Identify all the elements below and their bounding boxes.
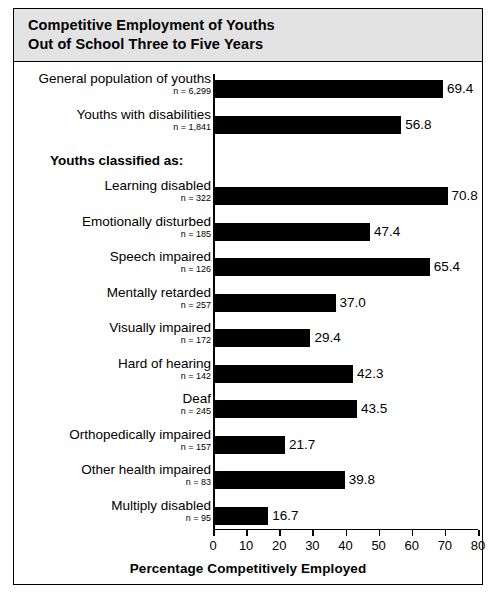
category-name: Multiply disabled bbox=[111, 498, 211, 513]
category-name: Emotionally disturbed bbox=[82, 214, 211, 229]
bar-value-label: 70.8 bbox=[452, 188, 478, 204]
bar-row: Other health impairedn = 8339.8 bbox=[14, 471, 482, 489]
x-axis-tick bbox=[312, 530, 314, 536]
chart-title-line-1: Competitive Employment of Youths bbox=[28, 16, 482, 35]
category-sample-size: n = 6,299 bbox=[38, 86, 211, 97]
bar-row-label: Speech impairedn = 126 bbox=[110, 249, 211, 275]
x-axis-tick-label: 50 bbox=[364, 538, 394, 553]
x-axis-tick bbox=[213, 530, 215, 536]
bar-row: Youths with disabilitiesn = 1,84156.8 bbox=[14, 116, 482, 134]
bar bbox=[213, 329, 310, 347]
category-sample-size: n = 157 bbox=[69, 442, 211, 453]
bar-row: General population of youthsn = 6,29969.… bbox=[14, 80, 482, 98]
bar-row: Visually impairedn = 17229.4 bbox=[14, 329, 482, 347]
bar-row-label: Learning disabledn = 322 bbox=[104, 178, 211, 204]
x-axis-tick bbox=[445, 530, 447, 536]
bar-value-label: 43.5 bbox=[361, 401, 387, 417]
x-axis-tick-label: 0 bbox=[198, 538, 228, 553]
bar bbox=[213, 400, 357, 418]
y-axis-line bbox=[213, 74, 215, 529]
bar-value-label: 29.4 bbox=[314, 330, 340, 346]
category-sample-size: n = 1,841 bbox=[76, 122, 211, 133]
bar-row-label: General population of youthsn = 6,299 bbox=[38, 71, 211, 97]
bar-row-label: Orthopedically impairedn = 157 bbox=[69, 427, 211, 453]
category-name: Speech impaired bbox=[110, 249, 211, 264]
bar-value-label: 37.0 bbox=[340, 295, 366, 311]
bar-value-label: 21.7 bbox=[289, 437, 315, 453]
bar-row-label: Youths with disabilitiesn = 1,841 bbox=[76, 107, 211, 133]
x-axis-tick bbox=[346, 530, 348, 536]
bar bbox=[213, 258, 430, 276]
chart-title-banner: Competitive Employment of Youths Out of … bbox=[14, 9, 482, 62]
x-axis-tick bbox=[478, 530, 480, 536]
category-name: General population of youths bbox=[38, 71, 211, 86]
category-name: Deaf bbox=[181, 391, 211, 406]
bar-row: Emotionally disturbedn = 18547.4 bbox=[14, 223, 482, 241]
bar-value-label: 42.3 bbox=[357, 366, 383, 382]
bar-row: Learning disabledn = 32270.8 bbox=[14, 187, 482, 205]
bar-row: Deafn = 24543.5 bbox=[14, 400, 482, 418]
category-name: Mentally retarded bbox=[107, 285, 211, 300]
bar-value-label: 56.8 bbox=[405, 117, 431, 133]
bar-row-label: Deafn = 245 bbox=[181, 391, 211, 417]
category-name: Learning disabled bbox=[104, 178, 211, 193]
bar-value-label: 69.4 bbox=[447, 81, 473, 97]
x-axis-tick-label: 80 bbox=[463, 538, 493, 553]
bar bbox=[213, 223, 370, 241]
category-name: Hard of hearing bbox=[118, 356, 211, 371]
x-axis-tick bbox=[246, 530, 248, 536]
category-sample-size: n = 95 bbox=[111, 513, 211, 524]
bar bbox=[213, 507, 268, 525]
bar-row-label: Multiply disabledn = 95 bbox=[111, 498, 211, 524]
x-axis-tick bbox=[412, 530, 414, 536]
bar-row: Orthopedically impairedn = 15721.7 bbox=[14, 436, 482, 454]
chart-plot-area: General population of youthsn = 6,29969.… bbox=[14, 62, 482, 583]
category-sample-size: n = 172 bbox=[109, 335, 211, 346]
bar-value-label: 47.4 bbox=[374, 224, 400, 240]
category-name: Visually impaired bbox=[109, 320, 211, 335]
bar bbox=[213, 436, 285, 454]
x-axis-tick-label: 30 bbox=[297, 538, 327, 553]
bar-row-label: Other health impairedn = 83 bbox=[81, 462, 211, 488]
x-axis-tick bbox=[379, 530, 381, 536]
bar-value-label: 39.8 bbox=[349, 472, 375, 488]
category-sample-size: n = 83 bbox=[81, 477, 211, 488]
bar-row-label: Emotionally disturbedn = 185 bbox=[82, 214, 211, 240]
bar bbox=[213, 80, 443, 98]
x-axis-tick-label: 60 bbox=[397, 538, 427, 553]
x-axis-tick bbox=[279, 530, 281, 536]
bar-row-label: Hard of hearingn = 142 bbox=[118, 356, 211, 382]
category-name: Youths with disabilities bbox=[76, 107, 211, 122]
bar bbox=[213, 187, 448, 205]
category-name: Other health impaired bbox=[81, 462, 211, 477]
bar-value-label: 65.4 bbox=[434, 259, 460, 275]
chart-title-line-2: Out of School Three to Five Years bbox=[28, 35, 482, 54]
bar-row: Hard of hearingn = 14242.3 bbox=[14, 365, 482, 383]
bar bbox=[213, 365, 353, 383]
bar bbox=[213, 471, 345, 489]
category-name: Orthopedically impaired bbox=[69, 427, 211, 442]
category-sample-size: n = 126 bbox=[110, 264, 211, 275]
category-sample-size: n = 142 bbox=[118, 371, 211, 382]
bar-value-label: 16.7 bbox=[272, 508, 298, 524]
bar-row: Mentally retardedn = 25737.0 bbox=[14, 294, 482, 312]
x-axis-label: Percentage Competitively Employed bbox=[14, 561, 482, 576]
category-sample-size: n = 257 bbox=[107, 300, 211, 311]
bar-row: Speech impairedn = 12665.4 bbox=[14, 258, 482, 276]
x-axis-tick-label: 70 bbox=[430, 538, 460, 553]
bar-row-label: Visually impairedn = 172 bbox=[109, 320, 211, 346]
group-header-label: Youths classified as: bbox=[50, 153, 183, 168]
x-axis-tick-label: 20 bbox=[264, 538, 294, 553]
bar-row: Multiply disabledn = 9516.7 bbox=[14, 507, 482, 525]
bar-row-label: Mentally retardedn = 257 bbox=[107, 285, 211, 311]
category-sample-size: n = 245 bbox=[181, 406, 211, 417]
bar bbox=[213, 294, 336, 312]
category-sample-size: n = 322 bbox=[104, 193, 211, 204]
chart-figure: Competitive Employment of Youths Out of … bbox=[13, 8, 483, 585]
x-axis-tick-label: 10 bbox=[231, 538, 261, 553]
category-sample-size: n = 185 bbox=[82, 229, 211, 240]
bar bbox=[213, 116, 401, 134]
x-axis-tick-label: 40 bbox=[331, 538, 361, 553]
